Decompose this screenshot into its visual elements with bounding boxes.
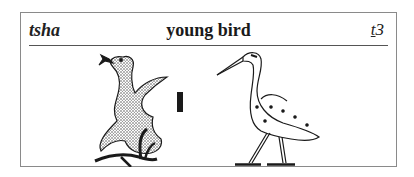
dictionary-entry-card: tsha young bird t3 — [20, 12, 397, 167]
heron-glyph-icon — [217, 53, 319, 165]
meaning: young bird — [29, 20, 388, 41]
sign-code-number: 3 — [376, 20, 385, 39]
stroke-glyph-icon — [177, 92, 183, 112]
sign-code: t3 — [371, 20, 384, 40]
young-bird-glyph-icon — [95, 55, 167, 167]
hieroglyph-group — [21, 47, 398, 167]
entry-header: tsha young bird t3 — [29, 13, 388, 46]
